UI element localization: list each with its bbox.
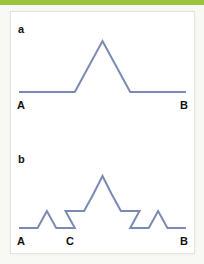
panel-b-endpoint-label-a: A — [17, 236, 25, 247]
panel-b-endpoint-label-c: C — [66, 236, 74, 247]
koch-path-a — [19, 41, 186, 92]
top-accent-rule — [0, 0, 204, 5]
panel-b-endpoint-label-b: B — [180, 236, 188, 247]
figure-root: a A B b A C B — [0, 0, 204, 264]
koch-curve-iteration-1 — [11, 12, 194, 130]
koch-path-b — [19, 176, 186, 228]
panel-a-endpoint-label-a: A — [17, 100, 25, 111]
panel-a: a A B — [11, 12, 194, 130]
koch-curve-iteration-2 — [11, 142, 194, 255]
panel-a-endpoint-label-b: B — [180, 100, 188, 111]
panel-b: b A C B — [11, 142, 194, 255]
figure-card: a A B b A C B — [10, 11, 195, 254]
